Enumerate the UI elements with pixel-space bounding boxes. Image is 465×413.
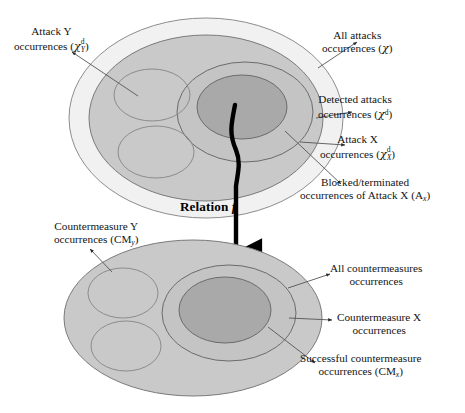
label-successful-countermeasure: Successful countermeasure occurrences (C… [300,352,421,382]
chi-symbol: χ [380,149,387,162]
label-countermeasure-y-line2: occurrences (CMy) [54,233,138,250]
label-countermeasure-x-line2: occurrences [337,324,421,337]
label-attack-y-line2: occurrences (χdY) [14,38,89,54]
label-all-countermeasures-line1: All countermeasures [330,262,422,275]
relation-figure: Attack Y occurrences (χdY) All attacks o… [0,0,465,413]
label-all-attacks-line1: All attacks [322,29,392,42]
label-successful-countermeasure-line2: occurrences (CMx) [300,365,421,382]
label-all-attacks-line2: occurrences (χ) [322,42,392,55]
label-countermeasure-y: Countermeasure Y occurrences (CMy) [54,220,138,250]
label-attack-x-line1: Attack X [320,133,395,146]
set-blocked-attack-x [197,75,287,139]
label-blocked-attack-x-line2: occurrences of Attack X (Ax) [300,189,430,206]
label-detected-attacks-line2: occurrences (χd) [318,106,392,122]
label-all-countermeasures-line2: occurrences [330,275,422,288]
countermeasures-set-diagram [64,240,322,396]
label-all-countermeasures: All countermeasures occurrences [330,262,422,289]
label-blocked-attack-x-line1: Blocked/terminated [300,176,430,189]
relation-f-label: Relation f [180,199,236,215]
label-detected-attacks-line1: Detected attacks [318,93,392,106]
label-attack-x: Attack X occurrences (χdX) [320,133,395,162]
label-countermeasure-y-line1: Countermeasure Y [54,220,138,233]
label-all-attacks: All attacks occurrences (χ) [322,29,392,56]
label-successful-countermeasure-line1: Successful countermeasure [300,352,421,365]
set-successful-countermeasure [179,277,271,343]
label-attack-x-line2: occurrences (χdX) [320,146,395,162]
relation-f-word: Relation [180,199,228,214]
label-detected-attacks: Detected attacks occurrences (χd) [318,93,392,122]
label-attack-y: Attack Y occurrences (χdY) [14,25,89,54]
chi-symbol: χ [74,41,81,54]
chi-symbol: χ [378,109,385,122]
label-countermeasure-x: Countermeasure X occurrences [337,311,421,338]
chi-symbol: χ [382,42,389,55]
relation-f-symbol: f [232,199,237,214]
label-countermeasure-x-line1: Countermeasure X [337,311,421,324]
label-attack-y-line1: Attack Y [14,25,89,38]
label-blocked-attack-x: Blocked/terminated occurrences of Attack… [300,176,430,206]
